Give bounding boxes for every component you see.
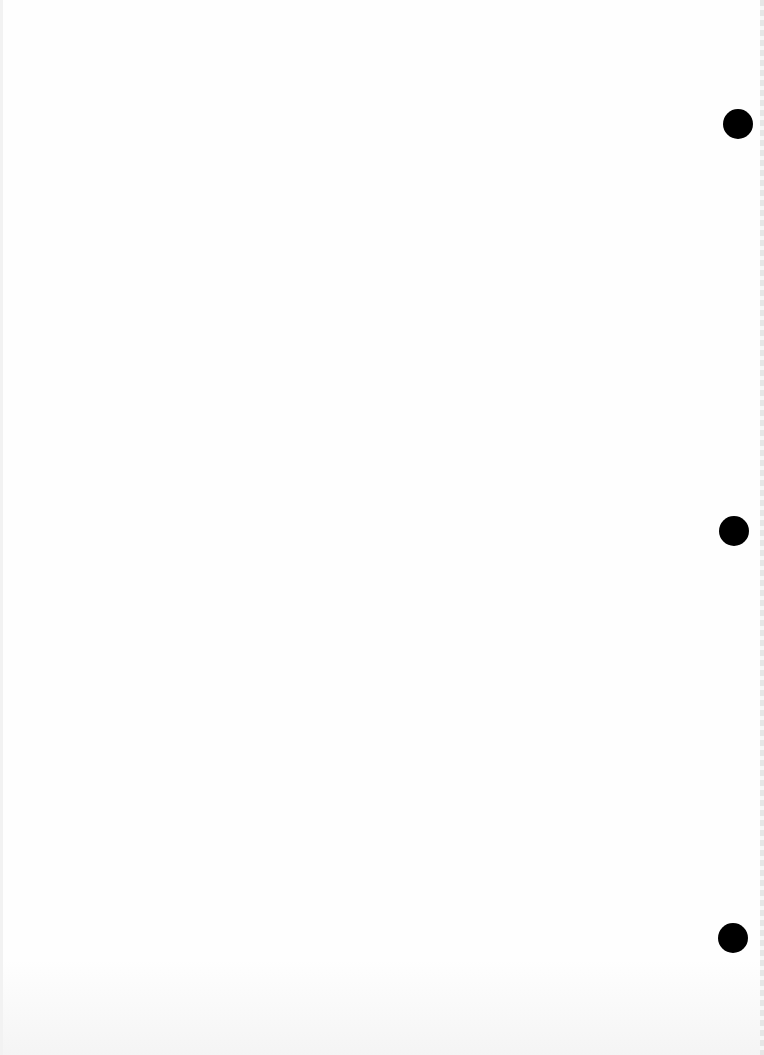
page-left-edge — [0, 0, 3, 1055]
blank-page — [0, 0, 764, 1055]
page-right-edge — [760, 0, 764, 1055]
punch-hole-middle — [719, 516, 749, 546]
punch-hole-top — [723, 109, 753, 139]
punch-hole-bottom — [718, 923, 748, 953]
